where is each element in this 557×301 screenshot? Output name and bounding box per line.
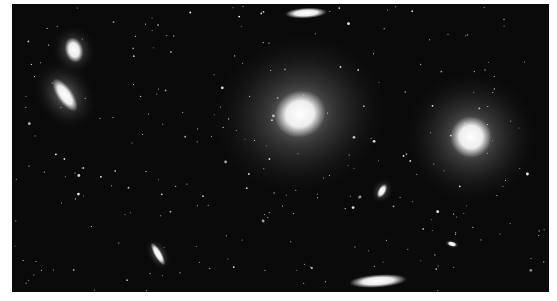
star <box>434 254 435 255</box>
star <box>128 187 130 189</box>
star <box>499 234 500 235</box>
star <box>41 270 42 271</box>
star <box>65 176 66 177</box>
star <box>140 96 141 97</box>
star <box>135 36 136 37</box>
star <box>538 235 539 236</box>
star <box>296 270 297 271</box>
star <box>73 269 75 271</box>
star <box>23 260 24 261</box>
star <box>83 196 84 197</box>
star <box>53 269 54 270</box>
star <box>182 112 183 113</box>
star <box>184 136 186 138</box>
star <box>386 240 387 241</box>
star <box>293 213 294 214</box>
star <box>48 45 49 46</box>
star <box>145 171 146 172</box>
star <box>503 19 504 20</box>
star <box>25 96 26 97</box>
star <box>74 173 75 174</box>
star <box>189 12 191 14</box>
star <box>420 260 421 261</box>
star <box>34 135 35 136</box>
star <box>431 219 432 220</box>
star <box>160 215 161 216</box>
star <box>238 16 240 18</box>
star <box>197 128 198 129</box>
star <box>447 34 448 35</box>
star <box>170 211 172 213</box>
star <box>504 26 505 27</box>
edge-on-bottom-galaxy <box>342 270 415 291</box>
star <box>242 240 243 241</box>
star <box>170 51 172 53</box>
star <box>15 220 16 221</box>
giant-elliptical-right-galaxy <box>400 66 542 208</box>
star <box>282 205 283 206</box>
star <box>263 11 265 13</box>
star <box>480 239 481 240</box>
star <box>455 232 456 233</box>
star <box>145 24 146 25</box>
star <box>260 13 262 15</box>
star <box>400 197 401 198</box>
star <box>214 74 215 75</box>
lenticular-left-galaxy <box>18 46 112 144</box>
star <box>55 153 57 155</box>
star <box>166 35 167 36</box>
star <box>158 179 159 180</box>
star <box>304 264 305 265</box>
star <box>436 210 439 213</box>
star <box>35 261 36 262</box>
star <box>412 201 413 202</box>
star <box>432 230 433 231</box>
star <box>111 185 112 186</box>
star <box>40 62 41 63</box>
star <box>77 174 80 177</box>
star <box>142 134 143 135</box>
star <box>25 107 26 108</box>
star <box>368 250 369 251</box>
star <box>158 88 159 89</box>
star <box>267 217 268 218</box>
star <box>437 290 438 291</box>
star <box>16 179 17 180</box>
star <box>264 214 265 215</box>
star <box>133 84 134 85</box>
star <box>290 241 291 242</box>
star <box>91 226 92 227</box>
star <box>126 279 128 281</box>
star <box>242 6 243 7</box>
star <box>199 262 200 263</box>
star <box>175 186 176 187</box>
star <box>26 283 27 284</box>
star <box>146 290 147 291</box>
star <box>28 165 29 166</box>
star <box>44 172 45 173</box>
star <box>179 272 180 273</box>
star <box>130 212 131 213</box>
star <box>152 18 153 19</box>
star <box>33 274 34 275</box>
star <box>456 216 457 217</box>
galaxy-field-image <box>12 4 549 292</box>
star <box>100 176 102 178</box>
star <box>132 48 134 50</box>
tiny-galaxy-galaxy <box>442 237 462 250</box>
star <box>99 118 100 119</box>
star <box>161 193 163 195</box>
star <box>61 202 62 203</box>
star <box>75 198 76 199</box>
star <box>352 206 355 209</box>
star <box>202 195 204 197</box>
star <box>118 242 119 243</box>
star <box>374 266 375 267</box>
star <box>232 7 233 8</box>
star <box>64 158 66 160</box>
star <box>156 93 157 94</box>
star <box>57 26 58 27</box>
star <box>241 26 242 27</box>
star <box>77 8 78 9</box>
star <box>227 258 228 259</box>
